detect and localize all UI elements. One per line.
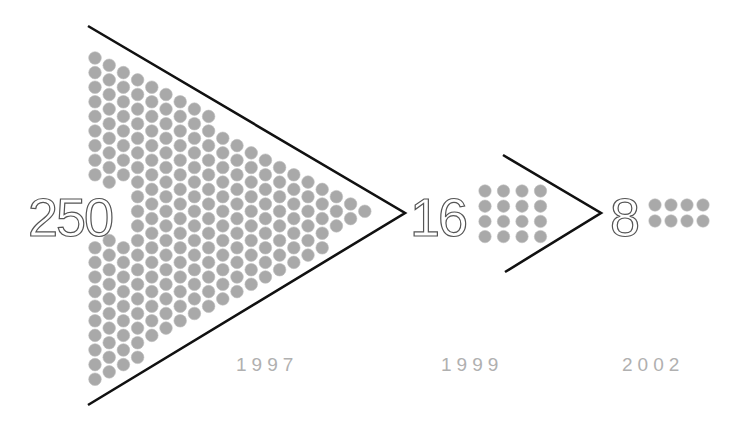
dot [245, 190, 258, 203]
dot [117, 125, 130, 138]
dot [160, 190, 173, 203]
year-label-1997: 1997 [236, 355, 298, 374]
dot [202, 169, 215, 182]
dot [160, 307, 173, 320]
dot [245, 147, 258, 160]
dot [117, 300, 130, 313]
dot [316, 183, 329, 196]
dot [89, 285, 102, 298]
dot [174, 96, 187, 109]
dot [288, 212, 301, 225]
dot [302, 190, 315, 203]
dot [103, 88, 116, 101]
dot [103, 336, 116, 349]
dot [245, 176, 258, 189]
dot [89, 256, 102, 269]
dot [117, 81, 130, 94]
dot [273, 205, 286, 218]
dot [273, 161, 286, 174]
dot [131, 220, 144, 233]
dot [131, 161, 144, 174]
dot [681, 215, 693, 227]
dot [174, 169, 187, 182]
dot [103, 147, 116, 160]
dot-group-8 [649, 199, 709, 227]
dot [131, 117, 144, 130]
dot [160, 147, 173, 160]
dot [89, 315, 102, 328]
dot [330, 190, 343, 203]
dot [117, 139, 130, 152]
dot [497, 215, 509, 227]
dot [174, 271, 187, 284]
dot [188, 263, 201, 276]
dot [288, 227, 301, 240]
dot [217, 234, 230, 247]
dot [202, 242, 215, 255]
dot [516, 200, 528, 212]
dot [245, 278, 258, 291]
dot [131, 307, 144, 320]
dot [697, 199, 709, 211]
year-label-1999: 1999 [441, 355, 503, 374]
dot [302, 234, 315, 247]
dot [117, 344, 130, 357]
dot [316, 198, 329, 211]
dot [231, 271, 244, 284]
dot [202, 300, 215, 313]
dot [479, 185, 491, 197]
dot [103, 322, 116, 335]
dot [665, 199, 677, 211]
dot [217, 220, 230, 233]
dot [146, 256, 159, 269]
dot [497, 230, 509, 242]
dot [89, 96, 102, 109]
dot [174, 285, 187, 298]
dot [103, 293, 116, 306]
dot [202, 198, 215, 211]
dot [231, 183, 244, 196]
dot [146, 212, 159, 225]
dot [131, 88, 144, 101]
dot [131, 103, 144, 116]
dot [131, 132, 144, 145]
dot [188, 220, 201, 233]
dot [117, 358, 130, 371]
dot [174, 198, 187, 211]
dot [174, 125, 187, 138]
dot [103, 117, 116, 130]
dot [188, 190, 201, 203]
dot [174, 183, 187, 196]
dot [174, 300, 187, 313]
dot [202, 139, 215, 152]
dot [188, 161, 201, 174]
dot [160, 293, 173, 306]
dot [649, 199, 661, 211]
dot [146, 81, 159, 94]
dot [188, 234, 201, 247]
dot [516, 230, 528, 242]
dot [497, 185, 509, 197]
dot [681, 199, 693, 211]
dot [302, 220, 315, 233]
dot [259, 212, 272, 225]
dot [231, 242, 244, 255]
dot [231, 169, 244, 182]
dot [146, 198, 159, 211]
dot [344, 198, 357, 211]
dot [117, 154, 130, 167]
dot [302, 205, 315, 218]
dot [131, 74, 144, 87]
dot [174, 110, 187, 123]
dot [103, 366, 116, 379]
dot [117, 66, 130, 79]
dot [174, 242, 187, 255]
dot [131, 205, 144, 218]
dot [359, 205, 372, 218]
dot [89, 271, 102, 284]
dot [117, 110, 130, 123]
count-1997: 250 [28, 190, 112, 244]
dot [89, 373, 102, 386]
dot [188, 293, 201, 306]
dot [146, 169, 159, 182]
